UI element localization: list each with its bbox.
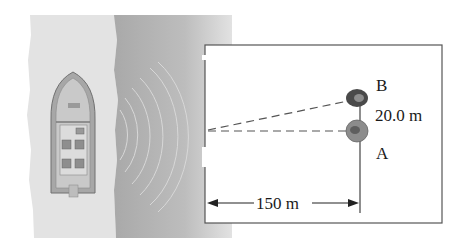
rock-a [346, 120, 368, 142]
diagram-box [202, 45, 442, 223]
physics-diagram: B 20.0 m A 150 m [0, 0, 465, 243]
label-b: B [376, 76, 387, 95]
boat [51, 72, 95, 197]
label-separation: 20.0 m [375, 106, 422, 125]
label-a: A [376, 144, 389, 163]
rock-b [346, 89, 368, 107]
label-distance: 150 m [256, 194, 299, 213]
